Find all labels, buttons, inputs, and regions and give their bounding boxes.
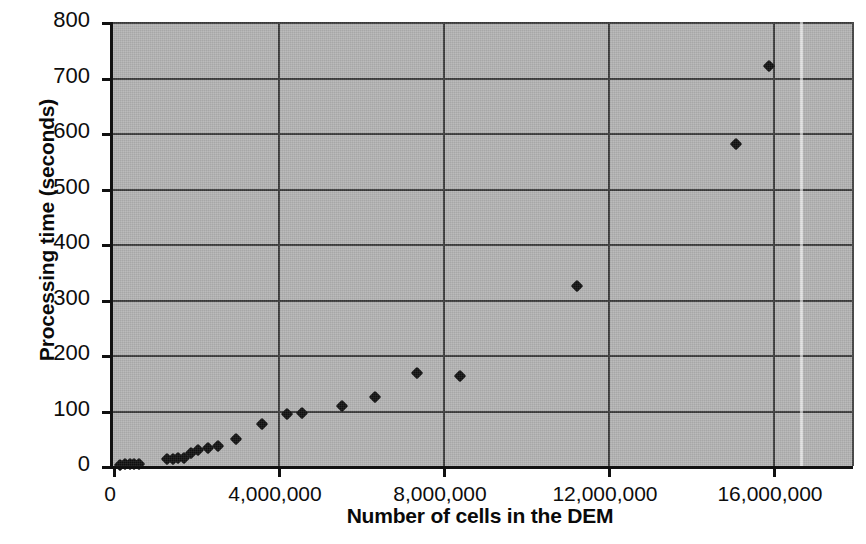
gridline-vertical: [608, 22, 610, 466]
y-tick: [102, 244, 113, 247]
data-point: [296, 406, 309, 419]
data-point: [369, 390, 382, 403]
y-tick-label: 300: [6, 285, 90, 311]
y-tick: [102, 78, 113, 81]
y-tick-label: 600: [6, 118, 90, 144]
gridline-vertical: [773, 22, 775, 466]
x-tick: [278, 466, 281, 477]
gridline-horizontal: [113, 355, 853, 357]
gridline-vertical: [443, 22, 445, 466]
data-point: [281, 407, 294, 420]
y-tick-label: 0: [6, 451, 90, 477]
y-tick-label: 700: [6, 63, 90, 89]
gridline-horizontal: [113, 189, 853, 191]
y-tick-label: 200: [6, 340, 90, 366]
gridline-horizontal: [113, 78, 853, 80]
y-tick-label: 100: [6, 396, 90, 422]
y-tick-label: 400: [6, 229, 90, 255]
plot-area: [110, 22, 853, 469]
gridline-horizontal: [113, 244, 853, 246]
y-tick: [102, 189, 113, 192]
y-tick: [102, 411, 113, 414]
y-tick-label: 500: [6, 174, 90, 200]
gridline-vertical: [278, 22, 280, 466]
chart-figure: Processing time (seconds) Number of cell…: [0, 0, 866, 544]
gridline-horizontal: [113, 411, 853, 413]
x-tick-label: 8,000,000: [393, 482, 486, 506]
data-point: [230, 433, 243, 446]
x-tick-label: 0: [104, 482, 116, 506]
gridline-horizontal: [113, 22, 853, 24]
x-tick-label: 16,000,000: [717, 482, 822, 506]
y-tick: [102, 22, 113, 25]
x-tick: [773, 466, 776, 477]
x-tick-label: 4,000,000: [228, 482, 321, 506]
gridline-horizontal: [113, 133, 853, 135]
y-tick-label: 800: [6, 7, 90, 33]
y-tick: [102, 300, 113, 303]
x-axis-title: Number of cells in the DEM: [110, 504, 850, 528]
data-point: [212, 440, 225, 453]
x-tick: [608, 466, 611, 477]
y-tick: [102, 133, 113, 136]
data-point: [571, 279, 584, 292]
plot-right-edge: [852, 22, 854, 466]
x-tick: [113, 466, 116, 477]
x-tick-label: 12,000,000: [552, 482, 657, 506]
y-tick: [102, 466, 113, 469]
gridline-horizontal: [113, 300, 853, 302]
data-point: [730, 138, 743, 151]
data-point: [454, 369, 467, 382]
y-tick: [102, 355, 113, 358]
x-tick: [443, 466, 446, 477]
data-point: [411, 366, 424, 379]
data-point: [256, 418, 269, 431]
